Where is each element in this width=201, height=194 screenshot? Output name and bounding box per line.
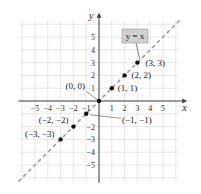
y-tick-label: 1 [91,84,95,93]
data-point [135,60,139,64]
x-tick-label: −4 [44,104,53,113]
point-label: (3, 3) [145,58,165,68]
data-point [122,73,126,77]
x-tick-label: −3 [56,104,65,113]
data-point [84,112,88,116]
point-label: (2, 2) [132,70,152,80]
y-tick-label: −4 [86,148,95,157]
point-label: (0, 0) [65,81,85,91]
x-axis-label: x [181,102,187,113]
x-tick-label: −2 [69,104,78,113]
x-tick-label: 3 [135,104,139,113]
equation-leader-line [136,43,140,60]
x-tick-label: 1 [110,104,114,113]
y-tick-label: −3 [86,135,95,144]
y-tick-label: 5 [91,33,95,42]
equation-label: y = x [126,31,145,41]
point-label: (1, 1) [118,83,138,93]
y-axis-arrow-icon [97,13,102,18]
x-tick-label: 5 [161,104,165,113]
point-label: (−2, −2) [39,115,69,125]
leader-line [90,115,121,118]
data-point [97,99,101,103]
data-point [71,124,75,128]
x-tick-label: −5 [31,104,40,113]
y-tick-label: 4 [91,46,95,55]
y-axis-label: y [88,10,94,21]
y-tick-label: −2 [86,123,95,132]
data-point [110,86,114,90]
x-tick-label: 2 [123,104,127,113]
x-tick-label: 4 [148,104,152,113]
y-tick-label: 3 [91,59,95,68]
y-tick-label: −5 [86,161,95,170]
y-tick-label: 2 [91,71,95,80]
data-point [58,137,62,141]
point-label: (−1, −1) [122,115,152,125]
coordinate-plane: xy−5−4−3−2−11234554321−2−3−4−5y = x(−3, … [0,0,201,194]
point-label: (−3, −3) [25,129,55,139]
